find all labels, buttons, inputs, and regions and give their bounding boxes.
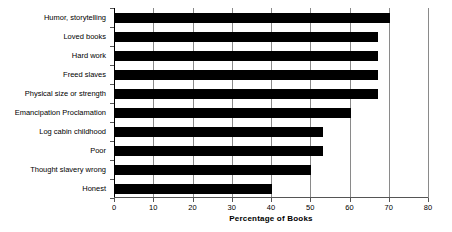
bar [115, 89, 378, 99]
category-label: Poor [0, 146, 106, 155]
gridline-80 [428, 8, 429, 198]
x-tick-label: 70 [374, 203, 404, 212]
bar [115, 146, 323, 156]
y-axis-line [114, 8, 115, 198]
x-tick-mark [350, 198, 351, 202]
x-tick-mark [428, 198, 429, 202]
bar [115, 51, 378, 61]
x-tick-mark [114, 198, 115, 202]
x-tick-label: 20 [178, 203, 208, 212]
x-tick-label: 40 [256, 203, 286, 212]
x-tick-label: 60 [335, 203, 365, 212]
x-tick-mark [389, 198, 390, 202]
x-tick-label: 30 [217, 203, 247, 212]
category-label: Freed slaves [0, 70, 106, 79]
x-tick-mark [310, 198, 311, 202]
x-tick-mark [193, 198, 194, 202]
category-label: Hard work [0, 51, 106, 60]
category-label: Log cabin childhood [0, 127, 106, 136]
plot-area [114, 8, 428, 198]
category-axis-labels: Humor, storytellingLoved booksHard workF… [0, 8, 110, 198]
x-tick-label: 50 [295, 203, 325, 212]
bar [115, 32, 378, 42]
x-tick-label: 80 [413, 203, 443, 212]
bar [115, 13, 390, 23]
bar [115, 184, 272, 194]
bar [115, 127, 323, 137]
x-tick-mark [232, 198, 233, 202]
category-label: Loved books [0, 32, 106, 41]
bar-chart: Humor, storytellingLoved booksHard workF… [0, 0, 452, 232]
category-label: Emancipation Proclamation [0, 108, 106, 117]
category-label: Physical size or strength [0, 89, 106, 98]
x-axis-title: Percentage of Books [114, 214, 428, 223]
category-label: Honest [0, 184, 106, 193]
bar [115, 108, 351, 118]
gridline-70 [389, 8, 390, 198]
bar [115, 70, 378, 80]
x-tick-mark [271, 198, 272, 202]
bar [115, 165, 311, 175]
x-tick-label: 10 [138, 203, 168, 212]
x-tick-mark [153, 198, 154, 202]
category-label: Thought slavery wrong [0, 165, 106, 174]
x-tick-label: 0 [99, 203, 129, 212]
category-label: Humor, storytelling [0, 13, 106, 22]
